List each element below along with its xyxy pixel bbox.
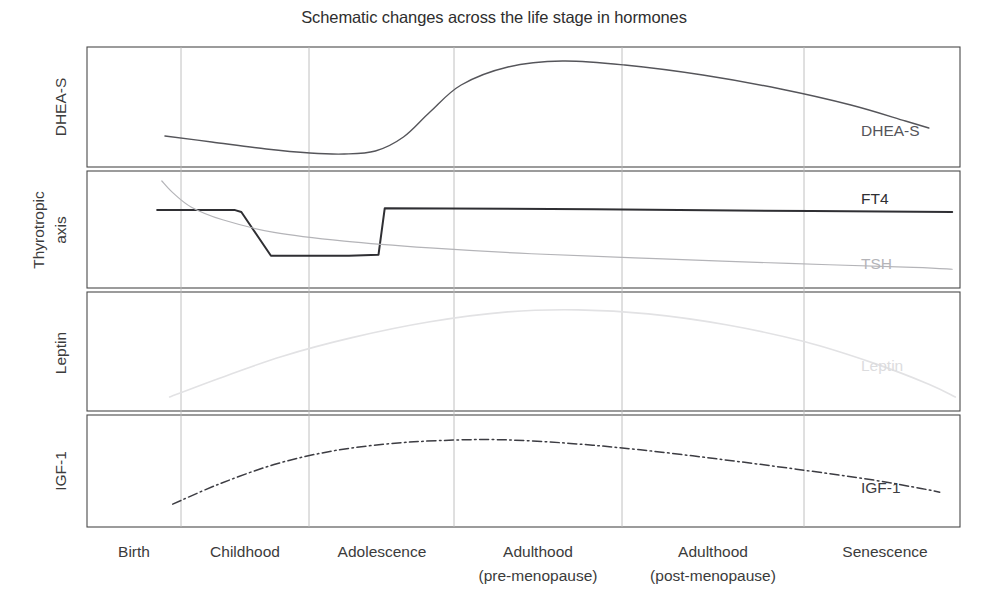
tick-label-senescence: Senescence [842,543,927,560]
gridlines [181,47,804,527]
tick-label-adulthood-pre-line1: Adulthood [503,543,573,560]
series-path-dhea-s [165,61,929,154]
figure-container: Schematic changes across the life stage … [0,0,988,613]
axis-label-leptin: Leptin [52,332,69,374]
series-label-dhea-s: DHEA-S [861,122,920,139]
series-label-ft4: FT4 [861,190,889,207]
axis-label-igf1: IGF-1 [52,451,69,491]
series-path-ft4 [157,208,952,256]
series-path-igf1 [173,440,940,505]
axis-label-dhea-s: DHEA-S [52,78,69,137]
series-path-leptin [170,310,956,397]
panel-frame-thyrotropic [87,171,960,288]
panel-frames [87,47,960,527]
schematic-hormone-chart: DHEA-S FT4 TSH Leptin IGF-1 DHEA-S Thyro… [0,0,988,613]
series-label-igf1: IGF-1 [861,479,901,496]
axis-label-thyrotropic-line1: Thyrotropic [30,191,47,269]
panel-axis-labels: DHEA-S Thyrotropic axis Leptin IGF-1 [30,78,69,491]
panel-frame-igf1 [87,415,960,527]
tick-label-adulthood-post-line1: Adulthood [678,543,748,560]
axis-label-thyrotropic-line2: axis [52,216,69,244]
panel-frame-leptin [87,292,960,411]
panel-frame-dhea [87,47,960,167]
series-labels: DHEA-S FT4 TSH Leptin IGF-1 [861,122,920,496]
tick-label-adulthood-pre-line2: (pre-menopause) [479,567,598,584]
tick-label-adulthood-post-line2: (post-menopause) [650,567,776,584]
series-label-leptin: Leptin [861,357,903,374]
tick-label-birth: Birth [118,543,150,560]
series-paths [157,61,955,504]
tick-label-adolescence: Adolescence [338,543,427,560]
series-label-tsh: TSH [861,255,892,272]
tick-label-childhood: Childhood [210,543,280,560]
x-tick-labels: Birth Childhood Adolescence Adulthood (p… [118,543,928,584]
